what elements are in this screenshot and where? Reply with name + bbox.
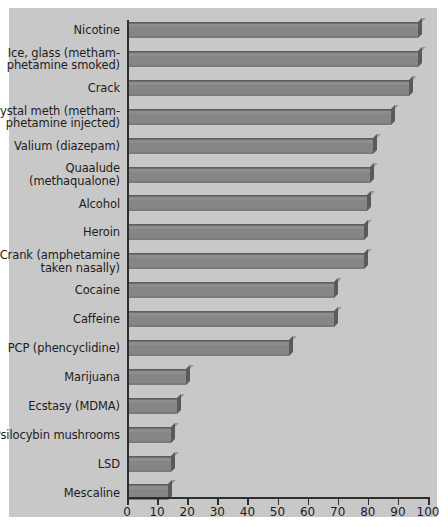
bar-row: Cocaine: [127, 278, 428, 307]
bar-category-label: Cocaine: [0, 284, 120, 297]
bar: [129, 369, 186, 385]
bar-category-label: Valium (diazepam): [0, 140, 120, 153]
bar-category-label: Quaalude (methaqualone): [0, 162, 120, 187]
bar-face: [129, 253, 364, 269]
bar-side-bevel: [364, 249, 368, 269]
bar-side-bevel: [171, 452, 175, 472]
bar-row: Ecstasy (MDMA): [127, 394, 428, 423]
bar-face: [129, 340, 289, 356]
chart-figure: NicotineIce, glass (metham- phetamine sm…: [0, 0, 448, 527]
bar: [129, 253, 364, 269]
bar-category-label: Psilocybin mushrooms: [0, 429, 120, 442]
bar-face: [129, 427, 171, 443]
bar-side-bevel: [367, 191, 371, 211]
bar-category-label: LSD: [0, 458, 120, 471]
bar-side-bevel: [370, 163, 374, 183]
bar-row: Psilocybin mushrooms: [127, 423, 428, 452]
bar: [129, 311, 334, 327]
bar-side-bevel: [177, 394, 181, 414]
bar-row: Marijuana: [127, 365, 428, 394]
bar-category-label: PCP (phencyclidine): [0, 342, 120, 355]
bar-row: Ice, glass (metham- phetamine smoked): [127, 47, 428, 76]
bar-row: Crack: [127, 76, 428, 105]
bar-face: [129, 195, 367, 211]
bar-category-label: Caffeine: [0, 313, 120, 326]
bar-face: [129, 22, 418, 38]
bar-category-label: Ecstasy (MDMA): [0, 400, 120, 413]
bar-face: [129, 109, 391, 125]
bar: [129, 427, 171, 443]
bar-face: [129, 398, 177, 414]
bar-side-bevel: [373, 134, 377, 154]
bar-side-bevel: [186, 365, 190, 385]
bar: [129, 456, 171, 472]
bar-face: [129, 311, 334, 327]
bar-row: Crystal meth (metham- phetamine injected…: [127, 105, 428, 134]
bar-face: [129, 167, 370, 183]
bar-face: [129, 224, 364, 240]
bar-face: [129, 51, 418, 67]
bar-side-bevel: [391, 105, 395, 125]
bar-category-label: Crack: [0, 82, 120, 95]
bar: [129, 340, 289, 356]
bar-category-label: Nicotine: [0, 24, 120, 37]
bar: [129, 224, 364, 240]
bar-row: Heroin: [127, 220, 428, 249]
bar: [129, 138, 373, 154]
bar-category-label: Marijuana: [0, 371, 120, 384]
bar-category-label: Heroin: [0, 226, 120, 239]
bar-face: [129, 138, 373, 154]
bar-side-bevel: [418, 47, 422, 67]
bar-row: Nicotine: [127, 18, 428, 47]
bar: [129, 282, 334, 298]
bar: [129, 167, 370, 183]
bar-category-label: Mescaline: [0, 487, 120, 500]
bar-row: Caffeine: [127, 307, 428, 336]
bar-row: Quaalude (methaqualone): [127, 163, 428, 192]
bar-category-label: Alcohol: [0, 198, 120, 211]
bar-row: LSD: [127, 452, 428, 481]
plot-area: NicotineIce, glass (metham- phetamine sm…: [127, 18, 428, 488]
bar-face: [129, 456, 171, 472]
bar-face: [129, 369, 186, 385]
bar-row: Crank (amphetamine taken nasally): [127, 249, 428, 278]
bar-category-label: Crystal meth (metham- phetamine injected…: [0, 105, 120, 130]
bar-side-bevel: [334, 278, 338, 298]
bar: [129, 195, 367, 211]
bar-side-bevel: [334, 307, 338, 327]
bar: [129, 109, 391, 125]
bar-row: Valium (diazepam): [127, 134, 428, 163]
bar: [129, 22, 418, 38]
bar: [129, 398, 177, 414]
bar-side-bevel: [418, 18, 422, 38]
bar-side-bevel: [171, 423, 175, 443]
x-axis-tick-label: 100: [408, 505, 448, 519]
bar-side-bevel: [364, 220, 368, 240]
bar-side-bevel: [409, 76, 413, 96]
bar-face: [129, 282, 334, 298]
bar-row: Alcohol: [127, 191, 428, 220]
chart-panel: NicotineIce, glass (metham- phetamine sm…: [9, 8, 437, 517]
bar: [129, 80, 409, 96]
bar-side-bevel: [289, 336, 293, 356]
bar-category-label: Ice, glass (metham- phetamine smoked): [0, 47, 120, 72]
bar-row: PCP (phencyclidine): [127, 336, 428, 365]
bar-category-label: Crank (amphetamine taken nasally): [0, 249, 120, 274]
bar-face: [129, 80, 409, 96]
bar: [129, 51, 418, 67]
